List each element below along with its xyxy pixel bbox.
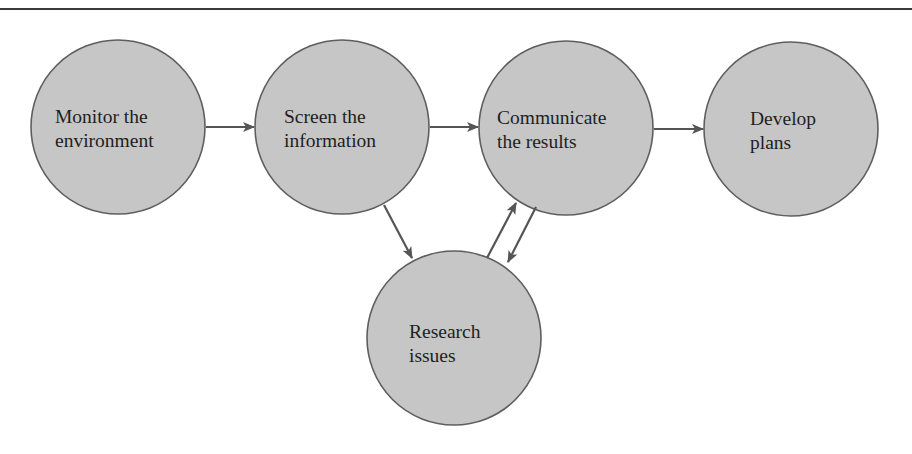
- node-research-label: Research issues: [409, 320, 480, 368]
- node-develop-label-line-1: Develop: [750, 107, 816, 131]
- process-diagram: [0, 0, 912, 454]
- node-monitor-label: Monitor the environment: [55, 105, 154, 153]
- edge-research-to-communicate: [487, 203, 516, 258]
- edge-screen-to-research: [384, 205, 412, 258]
- node-develop-label: Develop plans: [750, 107, 816, 155]
- node-research-label-line-2: issues: [409, 344, 480, 368]
- node-communicate-label: Communicate the results: [497, 106, 606, 154]
- edge-communicate-to-research: [508, 207, 536, 262]
- node-communicate-label-line-1: Communicate: [497, 106, 606, 130]
- node-screen-label: Screen the information: [284, 105, 376, 153]
- node-monitor-label-line-1: Monitor the: [55, 105, 154, 129]
- node-monitor-label-line-2: environment: [55, 129, 154, 153]
- node-communicate-label-line-2: the results: [497, 130, 606, 154]
- node-research-label-line-1: Research: [409, 320, 480, 344]
- node-screen-label-line-2: information: [284, 129, 376, 153]
- node-develop-label-line-2: plans: [750, 131, 816, 155]
- node-screen-label-line-1: Screen the: [284, 105, 376, 129]
